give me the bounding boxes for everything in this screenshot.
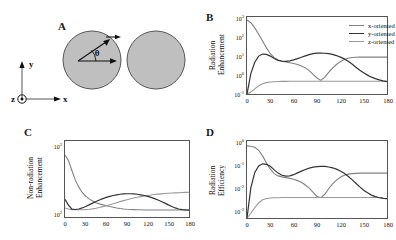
panel-b-xtick-60: 60 xyxy=(287,97,301,104)
legend-entry-x-oriented: x-oriented xyxy=(349,22,395,29)
panel-d-ytick-0.001: 10-3 xyxy=(224,207,244,215)
panel-b-ylabel-line2: Enhancement xyxy=(217,16,226,94)
axis-x-arrowhead xyxy=(54,96,61,101)
panel-c-xtick-90: 90 xyxy=(120,220,134,227)
axis-z-label: z xyxy=(11,94,15,104)
curve-d-z-oriented xyxy=(247,197,383,218)
panel-c-xtick-0: 0 xyxy=(58,220,72,227)
panel-d-curves xyxy=(247,141,387,218)
panel-c-ylabel: Non-radiation Enhancement xyxy=(26,138,46,218)
panel-c-letter: C xyxy=(24,126,32,138)
curve-c-y-oriented xyxy=(65,194,189,210)
panel-a-letter: A xyxy=(58,20,66,32)
legend-label-x-oriented: x-oriented xyxy=(368,22,395,29)
panel-c-xtick-30: 30 xyxy=(78,220,92,227)
panel-b-ylabel: Radiation Enhancement xyxy=(208,16,228,94)
axis-x-label: x xyxy=(63,94,68,104)
panel-c-xtick-60: 60 xyxy=(99,220,113,227)
panel-b: B Radiation Enhancement 103 102 101 100 … xyxy=(196,0,396,116)
panel-c-ytick-100: 102 xyxy=(44,210,62,218)
panel-d-xtick-180: 180 xyxy=(381,221,395,228)
panel-b-xtick-150: 150 xyxy=(357,97,371,104)
axis-y-label: y xyxy=(29,59,34,69)
figure-root: A θ y x z xyxy=(0,0,396,240)
panel-b-ylabel-line1: Radiation xyxy=(208,16,217,94)
panel-d-xtick-90: 90 xyxy=(310,221,324,228)
legend-swatch-z-oriented xyxy=(349,41,364,42)
panel-b-legend: x-oriented y-oriented z-oriented xyxy=(349,22,395,46)
panel-d-xtick-60: 60 xyxy=(287,221,301,228)
curve-b-y-oriented xyxy=(247,53,387,94)
legend-swatch-x-oriented xyxy=(349,25,364,26)
legend-swatch-y-oriented xyxy=(349,33,364,34)
panel-d-ytick-0.01: 10-2 xyxy=(224,184,244,192)
panel-d-xtick-0: 0 xyxy=(240,221,254,228)
legend-label-z-oriented: z-oriented xyxy=(368,38,394,45)
curve-c-x-oriented xyxy=(65,155,189,210)
panel-b-ytick-1: 100 xyxy=(226,71,244,79)
panel-b-xtick-180: 180 xyxy=(381,97,395,104)
panel-b-ytick-1000: 103 xyxy=(226,14,244,22)
panel-a: A θ y x z xyxy=(0,0,196,116)
panel-c-ytick-1000: 103 xyxy=(44,142,62,150)
panel-c: C Non-radiation Enhancement 103 102 0 30… xyxy=(0,116,196,240)
panel-d-plot-area xyxy=(246,140,388,219)
curve-d-y-oriented xyxy=(247,164,387,218)
panel-c-xtick-180: 180 xyxy=(183,220,197,227)
sphere-right xyxy=(127,31,185,89)
panel-d: D Radiation Efficiency 100 10-1 10-2 10-… xyxy=(196,116,396,240)
panel-c-plot-area xyxy=(64,140,190,218)
axis-y-arrowhead xyxy=(19,61,24,68)
panel-c-curves xyxy=(65,141,189,217)
panel-a-diagram: θ y x z xyxy=(0,0,196,116)
panel-c-xtick-150: 150 xyxy=(162,220,176,227)
axis-z-dot xyxy=(21,98,24,101)
panel-d-ytick-1: 100 xyxy=(226,138,244,146)
theta-label: θ xyxy=(95,48,100,58)
panel-d-xtick-120: 120 xyxy=(334,221,348,228)
panel-c-ylabel-line2: Enhancement xyxy=(35,138,44,218)
panel-d-xtick-30: 30 xyxy=(263,221,277,228)
legend-entry-y-oriented: y-oriented xyxy=(349,30,395,37)
panel-c-ylabel-line1: Non-radiation xyxy=(26,138,35,218)
panel-b-ytick-100: 102 xyxy=(226,33,244,41)
panel-b-xtick-90: 90 xyxy=(310,97,324,104)
panel-b-ytick-10: 101 xyxy=(226,52,244,60)
curve-b-z-oriented xyxy=(247,81,387,94)
panel-d-letter: D xyxy=(206,126,214,138)
legend-entry-z-oriented: z-oriented xyxy=(349,38,395,45)
panel-c-xtick-120: 120 xyxy=(141,220,155,227)
dipole-moment-arrowhead xyxy=(115,35,121,39)
panel-b-xtick-30: 30 xyxy=(263,97,277,104)
legend-label-y-oriented: y-oriented xyxy=(368,30,395,37)
panel-b-plot-area: x-oriented y-oriented z-oriented xyxy=(246,16,388,95)
panel-d-ylabel-line1: Radiation xyxy=(208,142,217,218)
panel-d-xtick-150: 150 xyxy=(357,221,371,228)
curve-d-x-oriented xyxy=(247,146,387,198)
panel-b-xtick-0: 0 xyxy=(240,97,254,104)
panel-b-xtick-120: 120 xyxy=(334,97,348,104)
panel-d-ytick-0.1: 10-1 xyxy=(224,161,244,169)
